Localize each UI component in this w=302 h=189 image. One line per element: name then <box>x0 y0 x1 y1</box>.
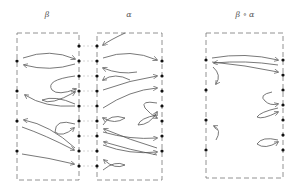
tangle-diagram <box>0 0 302 189</box>
alpha-box <box>97 33 162 180</box>
composite-box <box>206 33 283 178</box>
